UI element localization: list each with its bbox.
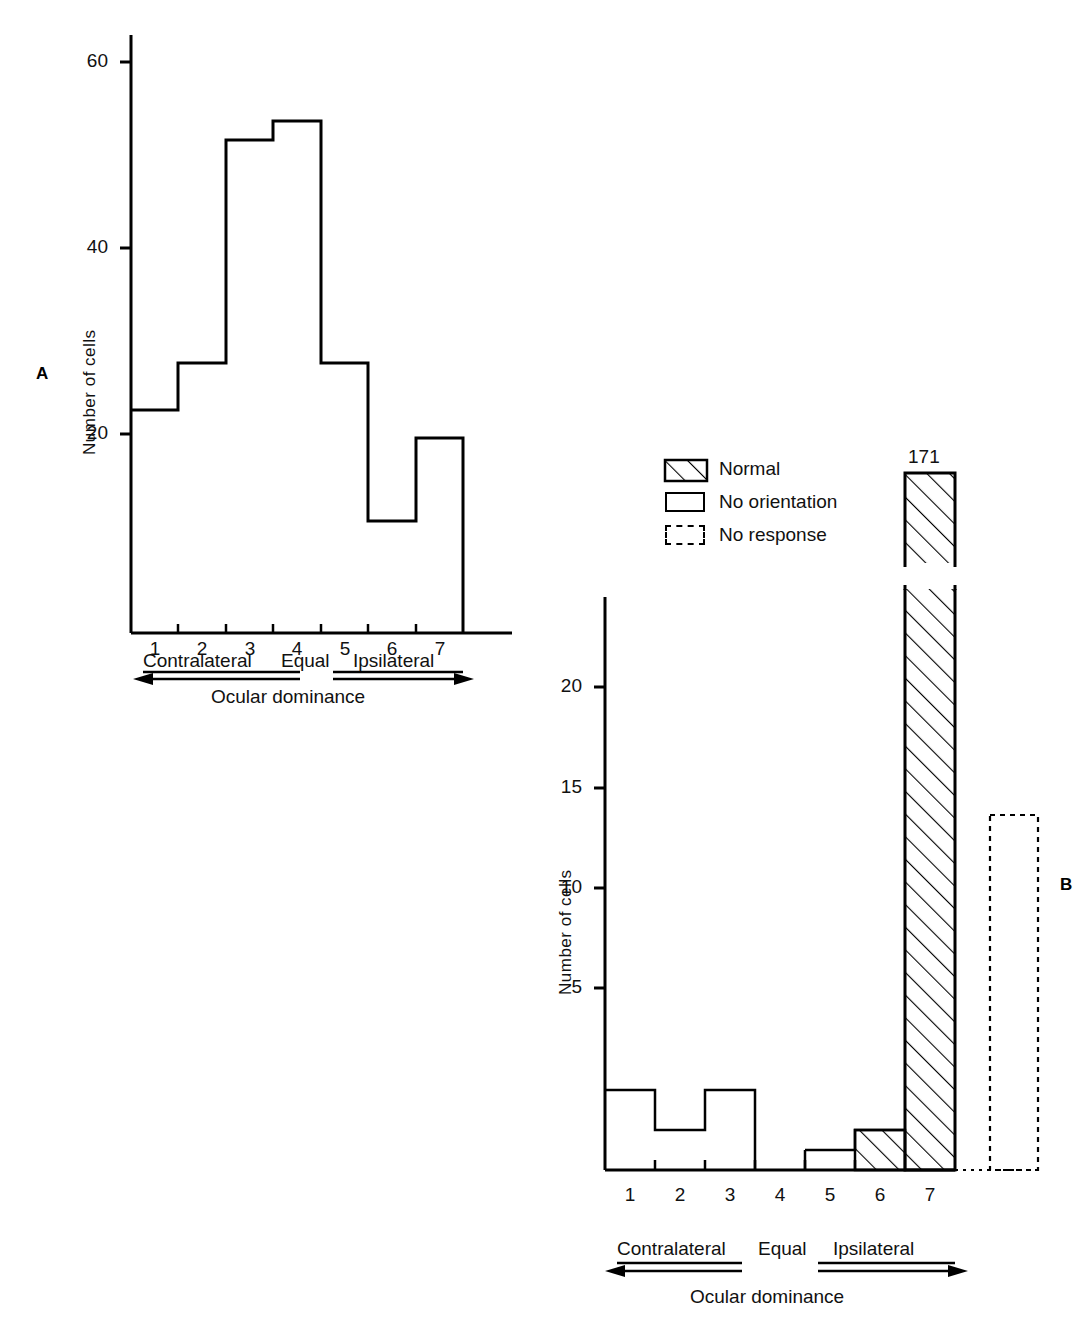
panel-a-histogram-outline	[131, 121, 463, 633]
panel-a-ytick-label-20: 20	[72, 422, 108, 444]
panel-b-bar-6-normal	[855, 1130, 905, 1170]
panel-b-xtick-label-2: 2	[665, 1184, 695, 1206]
panel-b-xtick-label-3: 3	[715, 1184, 745, 1206]
panel-b-ytick-label-10: 10	[546, 876, 582, 898]
panel-b-bar-break-gap	[903, 563, 957, 589]
legend-item-no-orientation[interactable]: No orientation	[665, 488, 837, 515]
legend-label-normal: Normal	[719, 458, 780, 480]
panel-a-group-label-contralateral: Contralateral	[143, 650, 252, 672]
panel-b-right-arrowhead	[948, 1265, 968, 1277]
panel-b-group-label-equal: Equal	[758, 1238, 807, 1260]
panel-b-bar-7-value-annotation: 171	[908, 446, 940, 468]
panel-a-left-arrowhead	[133, 673, 153, 685]
panel-b-xtick-label-7: 7	[915, 1184, 945, 1206]
panel-b-xtick-label-4: 4	[765, 1184, 795, 1206]
panel-a-right-arrowhead	[454, 673, 474, 685]
panel-b-xtick-label-5: 5	[815, 1184, 845, 1206]
panel-b-bar-no-response	[990, 815, 1038, 1170]
panel-a-group-label-equal: Equal	[281, 650, 330, 672]
panel-b-x-axis-label: Ocular dominance	[690, 1286, 844, 1308]
figure-canvas: A Number of cells 60 40 20 1 2 3 4 5 6 7…	[0, 0, 1089, 1321]
panel-b-histogram-no-orientation-outline	[605, 1090, 755, 1170]
legend-label-no-response: No response	[719, 524, 827, 546]
panel-b-group-label-contralateral: Contralateral	[617, 1238, 726, 1260]
panel-b-bar-7-normal-lower	[905, 585, 955, 1170]
panel-a-plot	[120, 35, 512, 685]
panel-b-xtick-label-6: 6	[865, 1184, 895, 1206]
legend-label-no-orientation: No orientation	[719, 491, 837, 513]
panel-b-bar-7-normal-upper	[905, 473, 955, 567]
panel-label-b: B	[1060, 875, 1072, 895]
panel-a-x-axis-label: Ocular dominance	[211, 686, 365, 708]
legend-item-no-response[interactable]: No response	[665, 521, 837, 548]
panel-b-ytick-label-20: 20	[546, 675, 582, 697]
panel-a-group-label-ipsilateral: Ipsilateral	[353, 650, 434, 672]
legend-item-normal[interactable]: Normal	[665, 455, 837, 482]
panel-a-ytick-label-40: 40	[72, 236, 108, 258]
dashed-box-icon	[665, 525, 705, 545]
panel-b-ytick-label-15: 15	[546, 776, 582, 798]
panel-b-xtick-label-1: 1	[615, 1184, 645, 1206]
outline-box-icon	[665, 492, 705, 512]
panel-b-left-arrowhead	[605, 1265, 625, 1277]
panel-label-a: A	[36, 364, 48, 384]
panel-a-ytick-label-60: 60	[72, 50, 108, 72]
panel-b-plot	[594, 473, 1040, 1277]
panel-b-ytick-label-5: 5	[546, 976, 582, 998]
hatched-box-icon	[665, 459, 705, 479]
legend: Normal No orientation No response	[665, 455, 837, 554]
panel-b-group-label-ipsilateral: Ipsilateral	[833, 1238, 914, 1260]
